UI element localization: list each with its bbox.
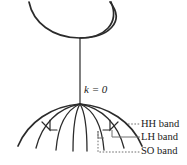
conduction-band-curve-right (80, 2, 114, 38)
inner-band-curve-left (73, 104, 80, 151)
lh-band-label: LH band (141, 132, 178, 143)
k-zero-label: k = 0 (84, 84, 107, 95)
so-band-label: SO band (141, 146, 177, 157)
hh-band-label: HH band (141, 119, 179, 130)
inner-band-curve-right (80, 104, 87, 151)
band-diagram-figure: HH band LH band SO band k = 0 (0, 0, 187, 165)
